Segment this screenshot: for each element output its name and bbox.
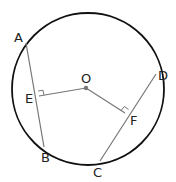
label-b: B <box>41 150 50 165</box>
label-f: F <box>130 113 137 128</box>
segment-of <box>86 88 125 113</box>
label-e: E <box>25 91 33 106</box>
segment-oe <box>39 88 86 96</box>
right-angle-mark-e <box>38 90 44 95</box>
label-c: C <box>93 165 102 180</box>
chord-cd <box>100 74 156 161</box>
label-o: O <box>81 71 91 86</box>
right-angle-mark-f <box>121 107 129 111</box>
geometry-diagram: A B C D E F O <box>0 0 176 182</box>
label-a: A <box>14 30 23 45</box>
center-point <box>84 86 88 90</box>
label-d: D <box>158 68 168 83</box>
